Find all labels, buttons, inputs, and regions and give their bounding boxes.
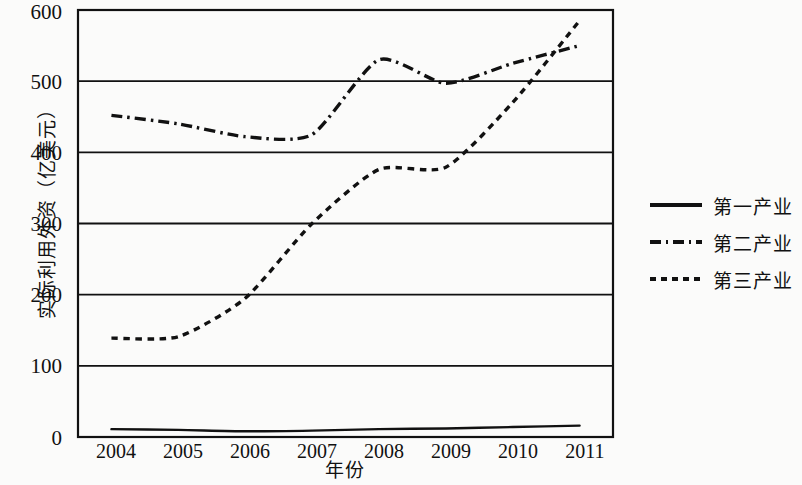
legend-line-solid-icon [650,203,702,211]
legend-item-secondary: 第二产业 [645,227,800,264]
legend-label-tertiary: 第三产业 [713,266,793,293]
series-lines [111,21,579,432]
legend-item-tertiary: 第三产业 [645,264,800,301]
legend-label-secondary: 第二产业 [713,229,793,256]
series-line-1 [111,426,579,432]
legend: 第一产业 第二产业 第三产业 [645,190,800,301]
legend-item-primary: 第一产业 [645,190,800,227]
series-line-3 [111,21,579,339]
legend-line-dotted-icon [650,277,702,281]
chart-figure: 实际利用外资（亿美元） 600 500 400 300 200 100 0 20… [0,0,802,485]
legend-label-primary: 第一产业 [713,192,793,219]
gridlines [78,81,613,366]
series-line-2 [111,46,579,140]
legend-line-dashdot-icon [650,240,702,244]
